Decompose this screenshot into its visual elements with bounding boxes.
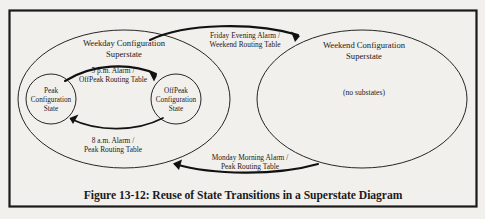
peak-state-label-line3: State	[44, 105, 58, 113]
weekend-superstate-note: (no substates)	[343, 88, 385, 97]
weekend-superstate-title-line1: Weekend Configuration	[323, 40, 406, 50]
peak-state-label-line2: Configuration	[31, 96, 72, 104]
superstate-diagram: Weekday Configuration Superstate Peak Co…	[0, 0, 485, 219]
transition-label-monday-morning-line2: Peak Routing Table	[221, 162, 280, 171]
figure-caption: Figure 13-12: Reuse of State Transitions…	[84, 189, 403, 202]
transition-label-five-pm-line1: 5 p.m. Alarm /	[92, 66, 136, 75]
transition-label-eight-am-line2: Peak Routing Table	[84, 145, 143, 154]
figure-container: Weekday Configuration Superstate Peak Co…	[0, 0, 485, 219]
weekday-superstate-title-line2: Superstate	[106, 49, 142, 59]
offpeak-state-label-line3: State	[169, 105, 183, 113]
transition-label-monday-morning-line1: Monday Morning Alarm /	[212, 153, 290, 162]
weekend-superstate-title-line2: Superstate	[346, 51, 382, 61]
transition-label-friday-evening-line2: Weekend Routing Table	[210, 40, 282, 49]
offpeak-state-label-line1: OffPeak	[164, 87, 188, 95]
peak-state-label-line1: Peak	[44, 87, 58, 95]
transition-label-eight-am-line1: 8 a.m. Alarm /	[92, 136, 135, 145]
offpeak-state-label-line2: Configuration	[156, 96, 197, 104]
transition-label-friday-evening-line1: Friday Evening Alarm /	[210, 31, 281, 40]
transition-label-five-pm-line2: OffPeak Routing Table	[79, 75, 148, 84]
